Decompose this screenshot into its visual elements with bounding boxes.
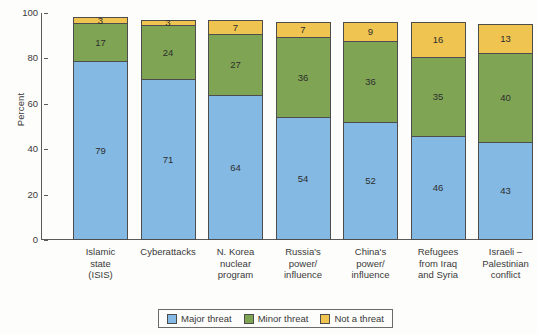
bar-value-label: 46 — [433, 183, 444, 193]
bar-value-label: 27 — [230, 60, 241, 70]
bar-segment[interactable]: 27 — [208, 34, 263, 95]
bar-value-label: 54 — [298, 174, 309, 184]
bar-segment[interactable]: 71 — [141, 79, 196, 240]
bar-group[interactable]: 73654 — [276, 22, 331, 240]
bar-value-label: 16 — [433, 35, 444, 45]
bar-value-label: 35 — [433, 92, 444, 102]
bar-group[interactable]: 72764 — [208, 20, 263, 240]
legend-swatch-icon — [244, 314, 254, 324]
legend-item[interactable]: Minor threat — [244, 314, 309, 324]
bar-value-label: 40 — [500, 93, 511, 103]
bar-segment[interactable]: 17 — [73, 23, 128, 62]
bar-segment[interactable]: 13 — [478, 24, 533, 54]
bar-segment[interactable]: 35 — [411, 57, 466, 136]
legend-item[interactable]: Not a threat — [320, 314, 384, 324]
bar-group[interactable]: 93652 — [343, 22, 398, 240]
bar-segment[interactable]: 7 — [208, 20, 263, 36]
legend-label: Major threat — [181, 314, 232, 324]
bar-value-label: 36 — [365, 77, 376, 87]
bar-segment[interactable]: 40 — [478, 53, 533, 144]
bar-segment[interactable]: 64 — [208, 95, 263, 240]
bar-value-label: 24 — [163, 48, 174, 58]
bar-segment[interactable]: 46 — [411, 136, 466, 240]
bar-value-label: 3 — [98, 16, 103, 26]
bar-segment[interactable]: 52 — [343, 122, 398, 240]
bar-value-label: 36 — [298, 73, 309, 83]
bar-value-label: 64 — [230, 163, 241, 173]
bar-segment[interactable]: 7 — [276, 22, 331, 38]
x-axis-label-line: (ISIS) — [58, 269, 144, 281]
x-axis-label-line: conflict — [463, 269, 537, 281]
bar-segment[interactable]: 9 — [343, 22, 398, 42]
legend-swatch-icon — [320, 314, 330, 324]
y-tick-label: 40 — [14, 144, 38, 154]
bar-value-label: 71 — [163, 155, 174, 165]
bar-group[interactable]: 31779 — [73, 17, 128, 240]
y-axis-ticks: 020406080100 — [8, 0, 38, 334]
x-axis-label-line: state — [58, 258, 144, 270]
bar-value-label: 7 — [233, 23, 238, 33]
y-tick-label: 100 — [14, 8, 38, 18]
y-tick-label: 80 — [14, 53, 38, 63]
bar-segment[interactable]: 16 — [411, 22, 466, 58]
y-tick-label: 60 — [14, 99, 38, 109]
bar-group[interactable]: 163546 — [411, 22, 466, 240]
bar-segment[interactable]: 24 — [141, 25, 196, 79]
x-axis-label: Israeli –Palestinianconflict — [463, 246, 537, 281]
bar-value-label: 52 — [365, 176, 376, 186]
bar-value-label: 9 — [368, 27, 373, 37]
y-tick-label: 20 — [14, 190, 38, 200]
bar-group[interactable]: 32471 — [141, 20, 196, 240]
bar-value-label: 17 — [95, 38, 106, 48]
chart-legend: Major threatMinor threatNot a threat — [158, 309, 393, 328]
bar-segment[interactable]: 36 — [276, 37, 331, 119]
bar-value-label: 79 — [95, 146, 106, 156]
bar-segment[interactable]: 54 — [276, 117, 331, 240]
bar-segment[interactable]: 36 — [343, 41, 398, 123]
y-tick-label: 0 — [14, 235, 38, 245]
legend-swatch-icon — [167, 314, 177, 324]
bar-value-label: 3 — [165, 18, 170, 28]
y-tick-mark — [44, 240, 48, 241]
bar-segment[interactable]: 79 — [73, 61, 128, 240]
bar-value-label: 13 — [500, 34, 511, 44]
plot-area: 3177932471727647365493652163546134043 — [41, 13, 509, 240]
legend-label: Minor threat — [258, 314, 309, 324]
bar-value-label: 7 — [300, 25, 305, 35]
bar-segment[interactable]: 43 — [478, 142, 533, 240]
bar-value-label: 43 — [500, 186, 511, 196]
legend-label: Not a threat — [334, 314, 384, 324]
x-axis-label-line: Palestinian — [463, 258, 537, 270]
legend-item[interactable]: Major threat — [167, 314, 232, 324]
bar-group[interactable]: 134043 — [478, 24, 533, 240]
x-axis-label-line: Israeli – — [463, 246, 537, 258]
